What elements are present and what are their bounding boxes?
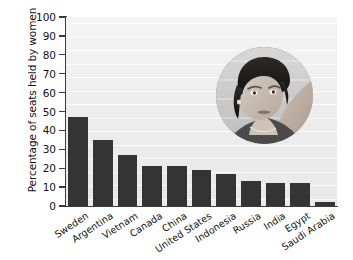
- y-axis-tick: [59, 35, 65, 36]
- y-axis-tick-label: 20: [0, 162, 56, 174]
- y-axis-tick: [59, 168, 65, 169]
- y-axis-tick-label: 80: [0, 49, 56, 61]
- y-axis-tick-label: 10: [0, 181, 56, 193]
- y-axis-tick-label: 30: [0, 143, 56, 155]
- bar-united-states: [192, 170, 212, 206]
- y-axis-tick: [59, 205, 65, 206]
- bar-canada: [142, 166, 162, 206]
- y-axis-tick: [59, 130, 65, 131]
- plot-scanline: [66, 23, 337, 24]
- chart-figure: Percentage of seats held by women 010203…: [0, 0, 353, 260]
- y-axis-tick-label: 40: [0, 124, 56, 136]
- y-axis-tick: [59, 186, 65, 187]
- bar-indonesia: [216, 174, 236, 206]
- y-axis-tick: [59, 149, 65, 150]
- y-axis-tick: [59, 92, 65, 93]
- bar-egypt: [290, 183, 310, 206]
- y-axis-tick: [59, 16, 65, 17]
- bar-vietnam: [118, 155, 138, 206]
- bar-india: [266, 183, 286, 206]
- y-axis-tick: [59, 54, 65, 55]
- y-axis-tick-label: 90: [0, 30, 56, 42]
- plot-scanline: [66, 37, 337, 38]
- bar-sweden: [68, 117, 88, 206]
- x-axis-tick-label: India: [262, 210, 288, 232]
- y-axis-tick-label: 70: [0, 68, 56, 80]
- y-axis-tick-label: 60: [0, 87, 56, 99]
- y-axis-tick: [59, 73, 65, 74]
- plot-scanline: [66, 50, 337, 51]
- y-axis-tick-label: 0: [0, 200, 56, 212]
- portrait-photo: [216, 47, 313, 144]
- x-axis-tick-label: Russia: [231, 210, 263, 236]
- bar-argentina: [93, 140, 113, 206]
- y-axis-tick: [59, 111, 65, 112]
- y-axis-tick-label: 100: [0, 11, 56, 23]
- portrait-photo-image: [216, 47, 313, 144]
- bar-china: [167, 166, 187, 206]
- y-axis-tick-label: 50: [0, 106, 56, 118]
- bar-saudi-arabia: [315, 202, 335, 206]
- bar-russia: [241, 181, 261, 206]
